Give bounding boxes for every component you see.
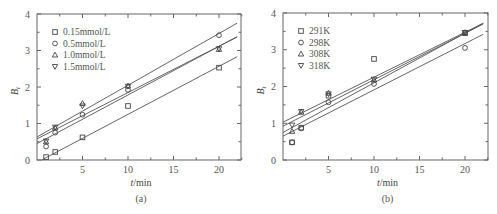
y-axis-title: Bt (9, 86, 22, 95)
y-tick-label: 3 (25, 45, 30, 56)
legend-label: 0.15mmol/L (63, 27, 110, 37)
square-marker (126, 104, 131, 109)
circle-marker (290, 140, 295, 145)
triangle-down-marker (289, 123, 294, 128)
panel-caption: (a) (135, 193, 146, 205)
legend-label: 298K (309, 38, 330, 48)
x-axis-title: t/min (130, 177, 151, 188)
y-axis-title: Bt (255, 85, 268, 94)
legend: 0.15mmol/L0.5mmol/L1.0mmol/L1.5mmol/L (52, 27, 110, 72)
x-tick-label: 15 (169, 164, 179, 175)
x-axis-title: t/min (377, 177, 398, 188)
triangle-down-marker (298, 64, 303, 69)
circle-marker (463, 46, 468, 51)
y-tick-label: 2 (271, 81, 276, 92)
y-tick-label: 0 (271, 155, 276, 166)
y-tick-label: 1 (25, 118, 30, 129)
circle-marker (44, 144, 49, 149)
x-tick-label: 15 (415, 164, 425, 175)
x-tick-label: 10 (369, 164, 379, 175)
legend-label: 308K (309, 49, 330, 59)
chart-panel-b: 510152001234t/minBt(b)291K298K308K318K (255, 8, 488, 206)
y-tick-label: 3 (271, 44, 276, 55)
x-tick-label: 20 (460, 164, 470, 175)
legend: 291K298K308K318K (298, 26, 330, 71)
circle-marker (53, 41, 58, 46)
y-tick-label: 4 (271, 8, 276, 19)
legend-label: 0.5mmol/L (63, 39, 106, 49)
triangle-down-marker (52, 65, 57, 70)
y-tick-label: 0 (25, 155, 30, 166)
panel-caption: (b) (382, 193, 394, 205)
triangle-down-marker (80, 104, 85, 109)
square-marker (299, 29, 304, 34)
circle-marker (299, 40, 304, 45)
square-marker (372, 57, 377, 62)
y-tick-label: 1 (271, 118, 276, 129)
triangle-up-marker (298, 51, 303, 56)
y-tick-label: 2 (25, 82, 30, 93)
legend-label: 1.0mmol/L (63, 50, 106, 60)
square-marker (53, 30, 58, 35)
legend-label: 1.5mmol/L (63, 62, 106, 72)
y-tick-label: 4 (25, 9, 30, 20)
chart-panel-a: 510152001234t/minBt(a)0.15mmol/L0.5mmol/… (9, 9, 242, 206)
legend-label: 291K (309, 26, 330, 36)
figure: 510152001234t/minBt(a)0.15mmol/L0.5mmol/… (0, 0, 497, 214)
x-tick-label: 20 (214, 164, 224, 175)
legend-label: 318K (309, 61, 330, 71)
fit-line (42, 57, 238, 160)
triangle-up-marker (52, 52, 57, 57)
x-tick-label: 5 (80, 164, 85, 175)
x-tick-label: 10 (123, 164, 133, 175)
x-tick-label: 5 (326, 164, 331, 175)
